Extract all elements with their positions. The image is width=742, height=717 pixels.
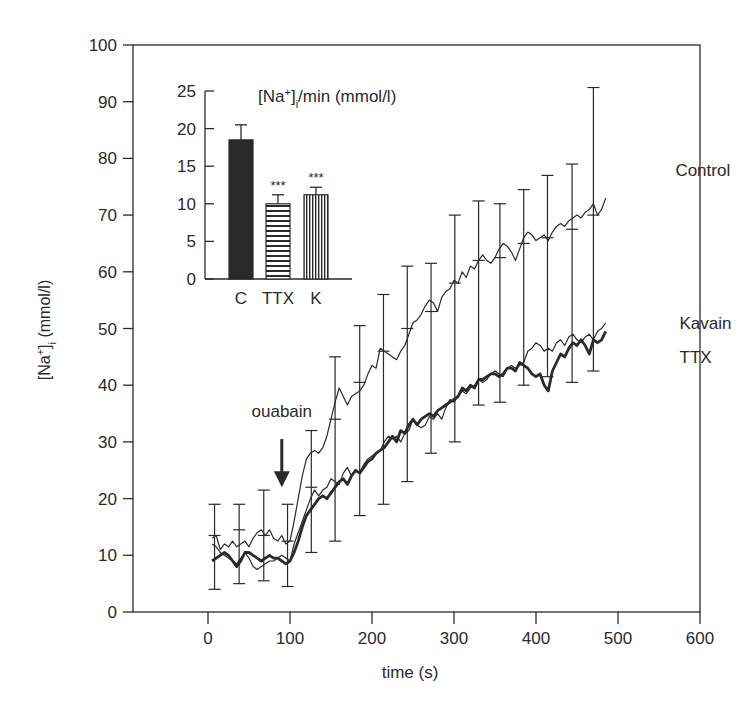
y-tick-label: 100 <box>89 36 117 55</box>
inset-y-tick-label: 0 <box>187 270 196 289</box>
series-labels: ControlKavainTTX <box>675 161 731 367</box>
x-axis: 0100200300400500600 <box>203 612 714 648</box>
x-tick-label: 500 <box>604 629 632 648</box>
y-tick-label: 50 <box>98 320 117 339</box>
y-tick-label: 90 <box>98 93 117 112</box>
x-tick-label: 100 <box>276 629 304 648</box>
y-tick-label: 0 <box>108 603 117 622</box>
series-label-control: Control <box>675 161 730 180</box>
y-axis: 0102030405060708090100 <box>89 36 133 622</box>
inset-bar-k <box>304 195 328 279</box>
y-axis-label: [Na+]i (mmol/l) <box>34 280 58 380</box>
inset-category-label: TTX <box>262 289 294 308</box>
inset-category-label: C <box>235 289 247 308</box>
significance-marker: *** <box>270 178 285 193</box>
inset-category-label: K <box>310 289 322 308</box>
y-tick-label: 60 <box>98 263 117 282</box>
x-tick-label: 0 <box>203 629 212 648</box>
series-line-ttx <box>212 331 606 566</box>
significance-marker: *** <box>308 170 323 185</box>
inset-bars: C***TTX***K <box>229 125 328 308</box>
y-tick-label: 20 <box>98 490 117 509</box>
x-tick-label: 400 <box>522 629 550 648</box>
ouabain-label: ouabain <box>252 402 313 421</box>
y-tick-label: 80 <box>98 149 117 168</box>
plot-frame <box>133 45 700 612</box>
down-arrow-icon <box>274 439 290 487</box>
series-label-ttx: TTX <box>680 348 712 367</box>
inset-y-tick-label: 10 <box>177 195 196 214</box>
x-tick-label: 600 <box>686 629 714 648</box>
inset-y-tick-label: 15 <box>177 157 196 176</box>
y-tick-label: 70 <box>98 206 117 225</box>
inset-title: [Na+]i/min (mmol/l) <box>258 86 396 110</box>
inset-y-tick-label: 25 <box>177 82 196 101</box>
x-tick-label: 300 <box>440 629 468 648</box>
y-tick-label: 30 <box>98 433 117 452</box>
main-plot: 0102030405060708090100 01002003004005006… <box>34 36 731 682</box>
inset-y-tick-label: 5 <box>187 232 196 251</box>
y-tick-label: 10 <box>98 546 117 565</box>
x-axis-label: time (s) <box>382 663 439 682</box>
series-label-kavain: Kavain <box>680 314 732 333</box>
error-bars <box>209 88 600 590</box>
y-tick-label: 40 <box>98 376 117 395</box>
inset-bar-ttx <box>266 204 290 279</box>
x-tick-label: 200 <box>358 629 386 648</box>
inset-bar-c <box>229 140 253 279</box>
figure: 0102030405060708090100 01002003004005006… <box>0 0 742 717</box>
inset-y-tick-label: 20 <box>177 120 196 139</box>
inset-bar-chart: [Na+]i/min (mmol/l) 0510152025 C***TTX**… <box>177 82 396 308</box>
